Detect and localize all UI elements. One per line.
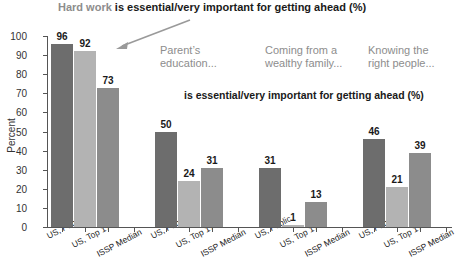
x-axis-tick-mark xyxy=(316,228,317,232)
bar-value-label: 46 xyxy=(368,126,379,137)
x-axis-group-separator-tick xyxy=(342,228,343,232)
x-axis-tick-mark xyxy=(85,228,86,232)
x-axis-tick-mark xyxy=(270,228,271,232)
bar xyxy=(259,168,281,227)
y-axis-line xyxy=(47,36,48,228)
bar-value-label: 31 xyxy=(264,155,275,166)
y-axis-tick-mark xyxy=(43,227,47,228)
bar xyxy=(74,51,96,227)
bar-value-label: 96 xyxy=(56,31,67,42)
bar xyxy=(305,202,327,227)
y-axis-tick-label: 0 xyxy=(21,222,27,233)
bar-value-label: 1 xyxy=(290,212,296,223)
bar-value-label: 13 xyxy=(310,189,321,200)
y-axis-tick-label: 30 xyxy=(16,164,27,175)
x-axis-tick-mark xyxy=(374,228,375,232)
bar xyxy=(409,153,431,227)
x-axis-tick-mark xyxy=(108,228,109,232)
bar xyxy=(178,181,200,227)
y-axis-tick-mark xyxy=(43,151,47,152)
y-axis-tick-label: 50 xyxy=(16,126,27,137)
bar xyxy=(363,139,385,227)
group-header-line2: wealthy family... xyxy=(265,57,342,70)
bar-value-label: 39 xyxy=(414,140,425,151)
y-axis-tick-label: 80 xyxy=(16,69,27,80)
y-axis-tick-label: 40 xyxy=(16,145,27,156)
group-header-line1: Coming from a xyxy=(265,44,337,56)
bar xyxy=(155,132,177,228)
bar xyxy=(282,225,304,227)
y-axis-tick-mark xyxy=(43,208,47,209)
group-header-line1: Knowing the xyxy=(368,44,429,56)
x-axis-tick-mark xyxy=(293,228,294,232)
group-header-line2: education... xyxy=(160,57,217,70)
y-axis-tick-mark xyxy=(43,36,47,37)
x-axis-tick-mark xyxy=(166,228,167,232)
y-axis-tick-label: 100 xyxy=(10,31,27,42)
y-axis-tick-label: 90 xyxy=(16,50,27,61)
y-axis-tick-mark xyxy=(43,170,47,171)
y-axis-tick-label: 70 xyxy=(16,88,27,99)
chart-subtitle: is essential/very important for getting … xyxy=(184,89,424,101)
y-axis-tick-mark xyxy=(43,189,47,190)
chart-title-highlight: Hard work xyxy=(58,1,112,13)
y-axis-ticks: 0102030405060708090100 xyxy=(0,0,44,276)
y-axis-tick-mark xyxy=(43,74,47,75)
y-axis-tick-label: 60 xyxy=(16,107,27,118)
x-axis-tick-mark xyxy=(212,228,213,232)
y-axis-tick-mark xyxy=(43,55,47,56)
x-axis-group-separator-tick xyxy=(134,228,135,232)
x-axis-tick-mark xyxy=(397,228,398,232)
y-axis-tick-mark xyxy=(43,112,47,113)
bar-value-label: 73 xyxy=(102,75,113,86)
bar-value-label: 50 xyxy=(160,119,171,130)
chart-title-rest: is essential/very important for getting … xyxy=(112,1,366,13)
bar-value-label: 21 xyxy=(391,174,402,185)
bar-value-label: 31 xyxy=(206,155,217,166)
bar xyxy=(51,44,73,227)
bar xyxy=(97,88,119,227)
group-header-line2: right people... xyxy=(368,57,435,70)
bar-value-label: 24 xyxy=(183,168,194,179)
group-header-line1: Parent’s xyxy=(160,44,200,56)
x-axis-group-separator-tick xyxy=(446,228,447,232)
group-header-right-people: Knowing the right people... xyxy=(368,44,435,70)
x-axis-group-separator-tick xyxy=(238,228,239,232)
y-axis-tick-mark xyxy=(43,132,47,133)
x-axis-tick-mark xyxy=(420,228,421,232)
group-header-wealthy-family: Coming from a wealthy family... xyxy=(265,44,342,70)
x-axis-tick-mark xyxy=(62,228,63,232)
bar-chart: Hard work is essential/very important fo… xyxy=(0,0,456,276)
y-axis-tick-label: 20 xyxy=(16,183,27,194)
bar xyxy=(386,187,408,227)
y-axis-tick-mark xyxy=(43,93,47,94)
group-header-parents-education: Parent’s education... xyxy=(160,44,217,70)
bar xyxy=(201,168,223,227)
chart-title: Hard work is essential/very important fo… xyxy=(58,1,366,13)
y-axis-tick-label: 10 xyxy=(16,202,27,213)
bar-value-label: 92 xyxy=(79,38,90,49)
x-axis-tick-mark xyxy=(189,228,190,232)
